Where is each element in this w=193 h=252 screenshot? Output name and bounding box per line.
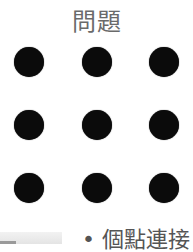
dot-5: [82, 110, 112, 140]
page-title: 問題: [0, 2, 193, 37]
dot-7: [14, 173, 44, 203]
footer-text: • 個點連接: [82, 229, 190, 251]
dot-6: [149, 110, 179, 140]
dot-8: [82, 173, 112, 203]
dot-2: [82, 47, 112, 77]
dot-3: [149, 47, 179, 77]
footer-bar-accent: [0, 241, 16, 244]
dot-9: [149, 173, 179, 203]
dot-4: [14, 110, 44, 140]
dot-1: [14, 47, 44, 77]
